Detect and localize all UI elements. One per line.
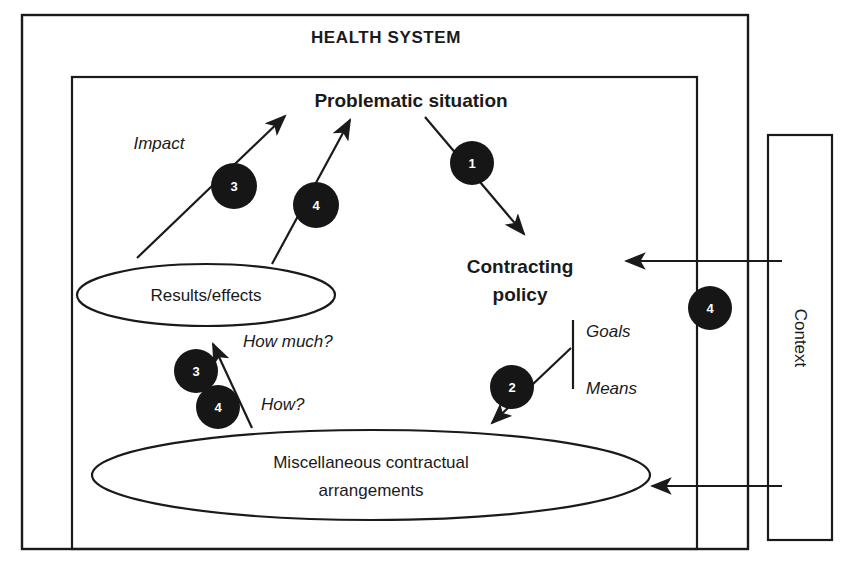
node-contracting-policy-line1: Contracting (467, 253, 574, 281)
badge-4-how: 4 (196, 385, 240, 429)
annotation-how-much: How much? (243, 333, 333, 351)
node-misc-arrangements-line2: arrangements (273, 477, 469, 505)
annotation-means: Means (586, 380, 637, 398)
annotation-how: How? (261, 396, 304, 414)
badge-1: 1 (450, 141, 494, 185)
health-system-label: HEALTH SYSTEM (311, 29, 461, 47)
badge-2: 2 (490, 365, 534, 409)
node-results-effects: Results/effects (150, 287, 261, 305)
diagram-canvas: HEALTH SYSTEM Problematic situation Cont… (0, 0, 848, 561)
context-label: Context (791, 309, 809, 368)
badge-3-impact: 3 (211, 163, 257, 209)
node-contracting-policy: Contracting policy (467, 253, 574, 308)
node-contracting-policy-line2: policy (467, 281, 574, 309)
annotation-impact: Impact (133, 135, 184, 153)
node-misc-arrangements: Miscellaneous contractual arrangements (273, 449, 469, 505)
annotation-goals: Goals (586, 323, 630, 341)
badge-4-impact: 4 (293, 182, 339, 228)
node-misc-arrangements-line1: Miscellaneous contractual (273, 449, 469, 477)
badge-4-context: 4 (688, 286, 732, 330)
node-problematic-situation: Problematic situation (314, 91, 507, 111)
